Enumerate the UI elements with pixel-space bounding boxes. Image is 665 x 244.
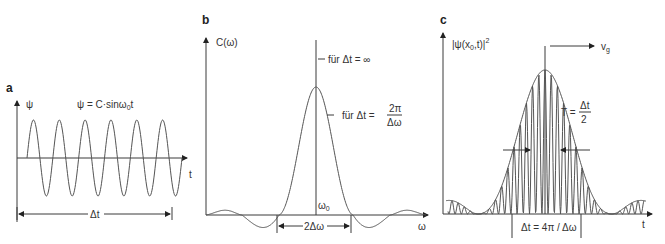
- width-label: 2Δω: [304, 221, 324, 232]
- panel-b-y-label: C(ω): [216, 37, 238, 48]
- panel-c-span-label: Δt = 4π / Δω: [521, 222, 577, 233]
- annotation-finite: für Δt =: [342, 110, 375, 121]
- panel-b-x-label: ω: [418, 221, 426, 232]
- group-velocity-label: vg: [601, 41, 610, 54]
- panel-b-label: b: [202, 13, 209, 27]
- wave-packet-diagram: a ψ ψ = C·sinω0t t Δt b C(ω) ω für Δt = …: [0, 0, 665, 244]
- annotation-finite-denominator: Δω: [387, 117, 402, 128]
- period-numerator: Δt: [580, 100, 590, 111]
- annotation-infinite: für Δt = ∞: [328, 54, 370, 65]
- panel-a: a ψ ψ = C·sinω0t t Δt: [6, 81, 192, 222]
- interference-fringes: [448, 70, 644, 214]
- panel-a-formula: ψ = C·sinω0t: [77, 99, 134, 111]
- panel-a-y-label: ψ: [26, 99, 33, 110]
- panel-c-y-label: |ψ(x0,t)|2: [452, 37, 489, 51]
- panel-a-label: a: [6, 81, 13, 95]
- panel-a-span-label: Δt: [90, 209, 100, 220]
- panel-c-x-label: t: [642, 219, 645, 230]
- annotation-finite-numerator: 2π: [389, 103, 402, 114]
- panel-a-x-label: t: [189, 169, 192, 180]
- period-label: T =: [561, 107, 576, 118]
- panel-c-label: c: [440, 13, 447, 27]
- panel-c: c |ψ(x0,t)|2 t vg T = Δt 2 Δt = 4π / Δω: [440, 13, 652, 238]
- center-frequency-label: ω0: [318, 200, 330, 212]
- panel-b: b C(ω) ω für Δt = ∞ für Δt = 2π Δω ω0 2Δ…: [202, 13, 428, 233]
- period-denominator: 2: [581, 114, 587, 125]
